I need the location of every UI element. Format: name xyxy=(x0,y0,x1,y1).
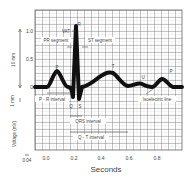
annotation-qt-interval: Q - T interval xyxy=(78,135,104,140)
x-tick-0.0: 0.0 xyxy=(43,155,50,161)
xlabel: Seconds xyxy=(90,165,121,174)
annotation-pr-segment: PR segment xyxy=(44,38,70,43)
wave-label-p1: P xyxy=(55,65,58,70)
ylabel: Voltage (mV) xyxy=(12,120,17,147)
wave-label-s: S xyxy=(78,104,81,109)
y-tick-0.5: 0.5 xyxy=(26,56,33,62)
wave-label-p2: P xyxy=(169,69,172,74)
x-tick-0.2: 0.2 xyxy=(71,155,78,161)
annotation-vat: VAT xyxy=(62,29,70,34)
x-tick-0.6: 0.6 xyxy=(126,155,133,161)
y-tick-0: 0 xyxy=(30,84,33,90)
x-tick-0.8: 0.8 xyxy=(154,155,161,161)
annotation-isoelectric: Isoelectric line xyxy=(143,97,172,102)
annotation-qrs-interval: QRS interval xyxy=(75,119,101,124)
scale-10mm-label: 10 mm xyxy=(11,53,16,67)
scale-time-label: 0.04 xyxy=(23,158,32,163)
annotation-st-segment: ST segment xyxy=(88,38,113,43)
scale-1mm-label: 1 mm xyxy=(10,95,15,107)
x-tick-0.4: 0.4 xyxy=(98,155,105,161)
wave-label-t: T xyxy=(112,64,115,69)
annotation-pr-interval: P - R interval xyxy=(39,97,65,102)
wave-label-u: U xyxy=(141,75,144,80)
wave-label-q: Q xyxy=(69,104,73,109)
ecg-diagram: 1.0 0.5 0 10 mm 1 mm Voltage (mV) 0.04 0… xyxy=(0,0,196,184)
y-tick-1.0: 1.0 xyxy=(26,28,33,34)
